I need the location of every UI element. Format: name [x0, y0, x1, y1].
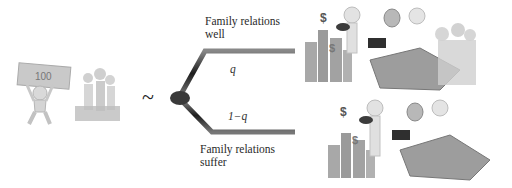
branch-upper-probability: q: [230, 63, 236, 75]
dollar-sign-bottom: $: [340, 105, 347, 119]
branch-lower-label-line1: Family relations: [200, 143, 275, 156]
svg-text:100: 100: [35, 71, 52, 82]
man-lifting-banknote-icon: 100: [17, 63, 71, 124]
dollar-sign-top: $: [320, 11, 327, 25]
svg-text:$: $: [352, 134, 358, 146]
branch-upper-label-line1: Family relations: [205, 15, 280, 28]
similar-to-symbol: ~: [142, 84, 154, 110]
branch-upper-label: Family relations well: [205, 15, 280, 41]
branch-upper-label-line2: well: [205, 28, 280, 41]
branch-lower-label: Family relations suffer: [200, 143, 275, 169]
branch-lower-label-line2: suffer: [200, 156, 275, 169]
chance-node: [170, 91, 190, 105]
svg-text:$: $: [329, 42, 335, 54]
family-with-money-icon: [75, 68, 120, 121]
branch-lower-probability: 1−q: [228, 110, 247, 122]
branch-upper-line: [180, 51, 295, 96]
